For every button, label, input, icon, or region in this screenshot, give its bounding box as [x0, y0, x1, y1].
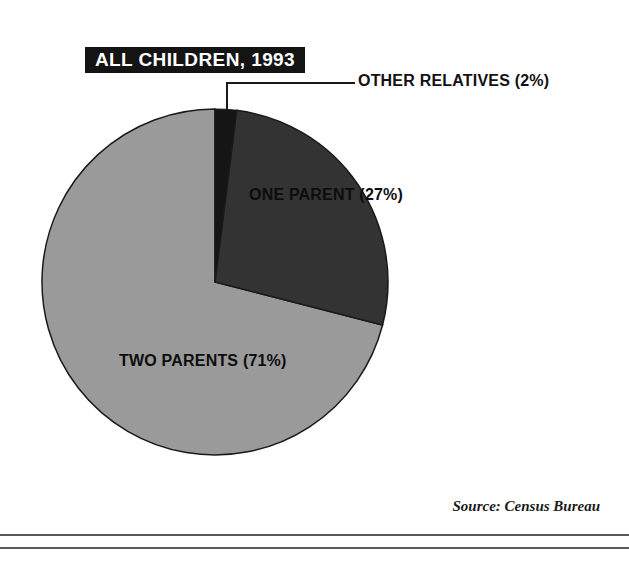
slice-label-two-parents: TWO PARENTS (71%) [119, 352, 287, 370]
divider-rule-top [0, 534, 629, 536]
source-attribution: Source: Census Bureau [452, 498, 600, 515]
divider-rule-bottom [0, 547, 629, 549]
slice-label-other-relatives: OTHER RELATIVES (2%) [358, 72, 549, 90]
slice-label-one-parent: ONE PARENT (27%) [249, 186, 403, 204]
callout-leader-line [227, 83, 355, 109]
chart-page: ALL CHILDREN, 1993 OTHER RELATIVES (2%) … [0, 0, 629, 569]
